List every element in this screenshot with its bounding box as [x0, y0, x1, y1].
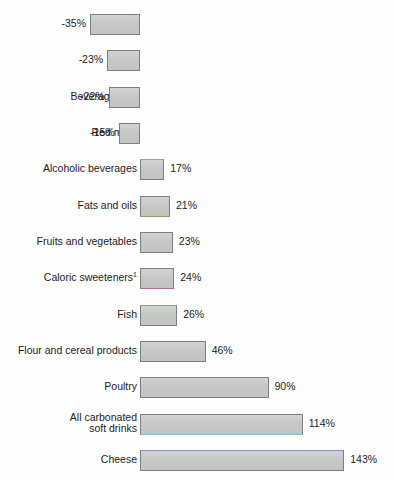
bar-row: All carbonatedsoft drinks114%	[0, 414, 394, 438]
bar	[140, 305, 177, 326]
bar	[107, 50, 140, 71]
category-label: Red meat	[0, 127, 137, 139]
value-label: -22%	[79, 91, 105, 103]
category-label-text: Alcoholic beverages	[43, 162, 137, 174]
bar	[140, 196, 170, 217]
category-label: Flour and cereal products	[0, 345, 137, 357]
bar	[140, 377, 269, 398]
value-label: 24%	[180, 272, 201, 284]
category-label: Caloric sweeteners1	[0, 272, 137, 284]
bar	[140, 159, 164, 180]
value-label: 114%	[309, 418, 335, 430]
category-label-text: Flour and cereal products	[18, 344, 137, 356]
bar	[140, 450, 344, 471]
bar-row: Fish26%	[0, 305, 394, 329]
bar	[140, 268, 174, 289]
category-label: Fish	[0, 309, 137, 321]
category-label: Fruits and vegetables	[0, 236, 137, 248]
bar	[119, 123, 140, 144]
bar-row: Red meat-15%	[0, 123, 394, 147]
value-label: 17%	[170, 163, 191, 175]
value-label: 26%	[183, 309, 204, 321]
bar-row: Fats and oils21%	[0, 196, 394, 220]
bar-row: Flour and cereal products46%	[0, 341, 394, 365]
category-label-text: Cheese	[101, 453, 137, 465]
bar-row: Poultry90%	[0, 377, 394, 401]
category-label-text: Caloric sweeteners	[44, 271, 133, 283]
bar-row: Fruits and vegetables23%	[0, 232, 394, 256]
value-label: -15%	[89, 127, 115, 139]
value-label: 46%	[212, 345, 233, 357]
value-label: 143%	[350, 454, 377, 466]
bar-row: Cheese143%	[0, 450, 394, 474]
category-label-line: soft drinks	[0, 423, 137, 435]
footnote-marker: 1	[133, 271, 137, 278]
bar-row: Caloric sweeteners124%	[0, 268, 394, 292]
value-label: 23%	[179, 236, 200, 248]
bar-row: Beverage milk-22%	[0, 87, 394, 111]
category-label-text: Fats and oils	[77, 199, 137, 211]
bar	[140, 414, 303, 435]
category-label: Cheese	[0, 454, 137, 466]
category-label: Poultry	[0, 381, 137, 393]
bar-row: Alcoholic beverages17%	[0, 159, 394, 183]
bar-row: Coffee-35%	[0, 14, 394, 38]
bar	[109, 87, 140, 108]
bar-chart: Coffee-35%Eggs-23%Beverage milk-22%Red m…	[0, 0, 394, 480]
category-label-text: Fruits and vegetables	[37, 235, 137, 247]
category-label-text: Fish	[117, 308, 137, 320]
category-label: Fats and oils	[0, 200, 137, 212]
value-label: 21%	[176, 200, 197, 212]
value-label: -23%	[77, 54, 103, 66]
bar	[90, 14, 140, 35]
value-label: 90%	[275, 381, 296, 393]
category-label: Alcoholic beverages	[0, 163, 137, 175]
category-label: All carbonatedsoft drinks	[0, 412, 137, 435]
bar-row: Eggs-23%	[0, 50, 394, 74]
category-label-text: Poultry	[104, 380, 137, 392]
value-label: -35%	[60, 18, 86, 30]
bar	[140, 341, 206, 362]
bar	[140, 232, 173, 253]
